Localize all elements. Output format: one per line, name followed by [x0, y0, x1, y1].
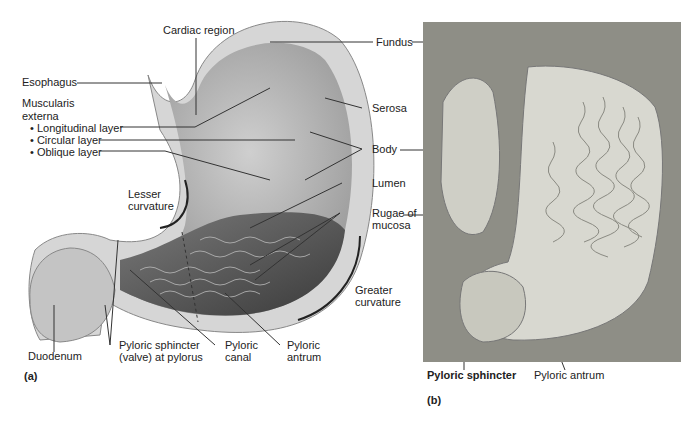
- label-b-pyloric-sphincter: Pyloric sphincter: [427, 369, 516, 382]
- caption-a: (a): [24, 370, 37, 383]
- label-mucosa: mucosa: [372, 219, 411, 232]
- label-greater-curvature: curvature: [355, 296, 401, 309]
- label-duodenum: Duodenum: [28, 350, 82, 363]
- label-esophagus: Esophagus: [22, 76, 77, 89]
- label-pyloric-sphincter-valve: (valve) at pylorus: [119, 351, 203, 364]
- label-canal: canal: [225, 351, 251, 364]
- label-lesser-curvature: curvature: [128, 200, 174, 213]
- label-serosa: Serosa: [372, 102, 407, 115]
- stomach-photo: [423, 22, 681, 362]
- label-fundus: Fundus: [376, 36, 413, 49]
- label-oblique-layer: • Oblique layer: [30, 146, 102, 159]
- label-b-pyloric-antrum: Pyloric antrum: [534, 369, 604, 382]
- label-antrum: antrum: [287, 351, 321, 364]
- label-lumen: Lumen: [372, 177, 406, 190]
- caption-b: (b): [427, 394, 441, 407]
- label-body: Body: [372, 143, 397, 156]
- label-cardiac-region: Cardiac region: [163, 24, 235, 37]
- label-muscularis: Muscularis: [22, 97, 75, 110]
